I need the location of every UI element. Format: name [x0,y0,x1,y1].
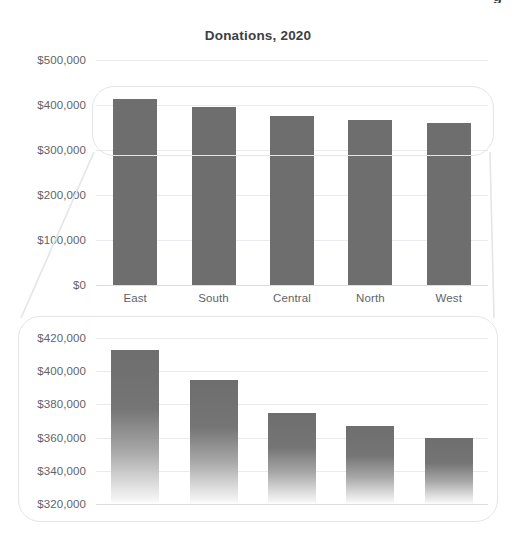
y-axis-tick-label: $500,000 [37,54,86,66]
overview-chart-title: Donations, 2020 [0,28,516,43]
gridline [96,504,488,505]
x-axis-tick-label: North [331,292,409,304]
y-axis-tick-label: $100,000 [37,234,86,246]
bar-north [346,426,394,504]
gridline [96,338,488,339]
y-axis-tick-label: $420,000 [37,332,86,344]
bar-west [427,123,471,285]
bar-west [425,438,473,504]
y-axis-tick-label: $200,000 [37,189,86,201]
magnified-plot-area: $320,000$340,000$360,000$380,000$400,000… [96,338,488,504]
bar-south [190,380,238,505]
bar-south [192,107,236,285]
y-axis-tick-label: $360,000 [37,432,86,444]
y-axis-tick-label: $340,000 [37,465,86,477]
bar-north [348,120,392,285]
magnified-chart: $320,000$340,000$360,000$380,000$400,000… [0,316,516,520]
bar-central [268,413,316,504]
overview-chart: Donations, 2020 $0$100,000$200,000$300,0… [0,22,516,302]
chart-figure: g Donations, 2020 $0$100,000$200,000$300… [0,0,516,542]
y-axis-tick-label: $0 [73,279,86,291]
x-axis-tick-label: South [174,292,252,304]
cut-off-top-text: g [0,0,516,3]
x-axis-tick-label: West [410,292,488,304]
overview-plot-area: $0$100,000$200,000$300,000$400,000$500,0… [96,60,488,285]
bar-east [113,99,157,285]
y-axis-tick-label: $380,000 [37,398,86,410]
x-axis-tick-label: Central [253,292,331,304]
gridline [96,60,488,61]
y-axis-tick-label: $400,000 [37,365,86,377]
x-axis-tick-label: East [96,292,174,304]
y-axis-tick-label: $320,000 [37,498,86,510]
bar-east [111,350,159,504]
bar-central [270,116,314,285]
y-axis-tick-label: $300,000 [37,144,86,156]
y-axis-tick-label: $400,000 [37,99,86,111]
gridline [96,285,488,286]
